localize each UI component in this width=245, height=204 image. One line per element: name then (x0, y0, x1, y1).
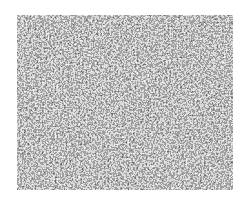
noise-texture (17, 15, 233, 190)
faint-bottom-text (17, 194, 233, 200)
faint-top-text (17, 4, 233, 10)
noise-image (17, 15, 233, 190)
